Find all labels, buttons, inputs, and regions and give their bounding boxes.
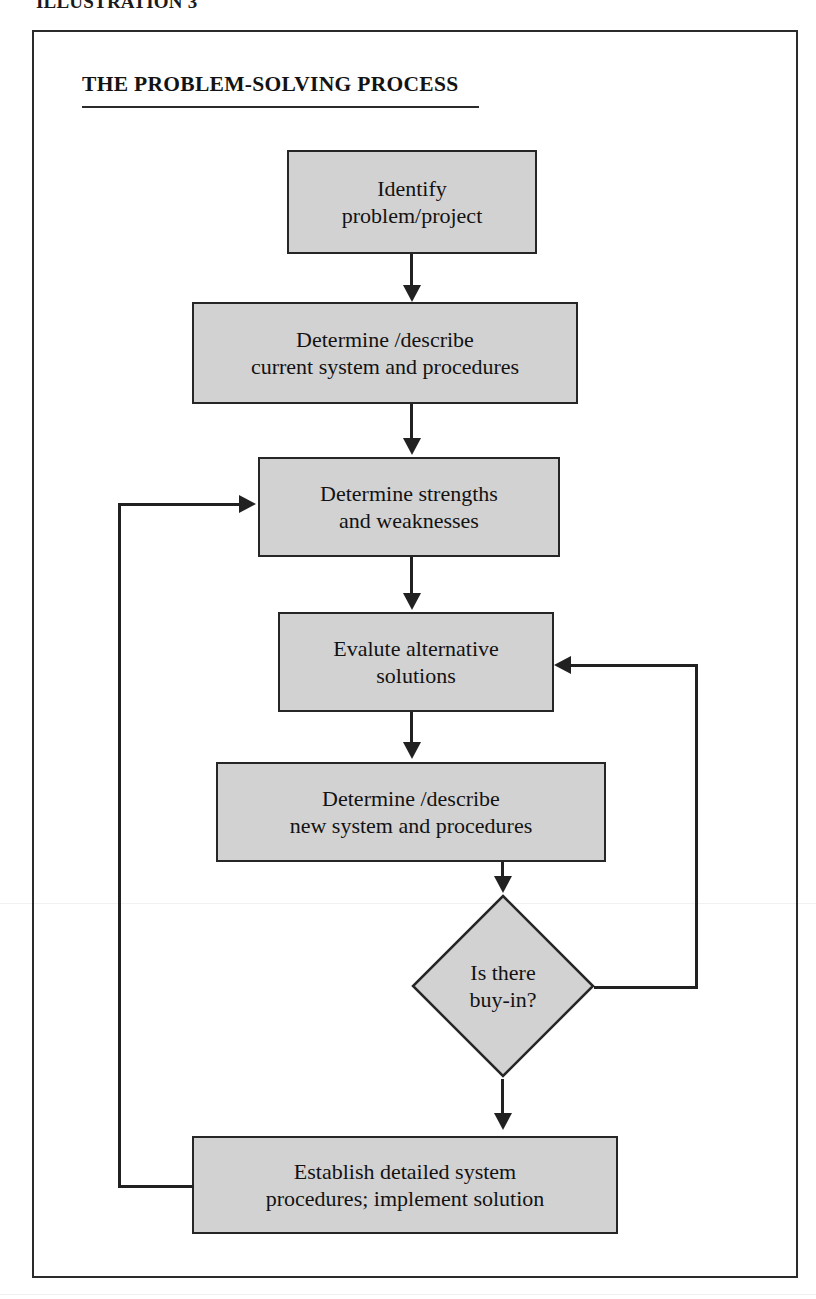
flow-node-determine-new-system[interactable]: Determine /describe new system and proce…: [216, 762, 606, 862]
flow-node-evaluate-alternatives[interactable]: Evalute alternative solutions: [278, 612, 554, 712]
flow-node-label: Establish detailed system procedures; im…: [266, 1158, 545, 1213]
feedback-right-horizontal-lower: [594, 986, 698, 989]
figure-title: THE PROBLEM-SOLVING PROCESS: [82, 72, 458, 97]
feedback-left-vertical: [118, 503, 121, 1188]
flow-node-determine-current-system[interactable]: Determine /describe current system and p…: [192, 302, 578, 404]
flow-node-label: Determine /describe new system and proce…: [290, 785, 533, 840]
flow-node-label: Determine /describe current system and p…: [251, 326, 519, 381]
feedback-right-horizontal-upper: [571, 664, 698, 667]
flow-node-establish-procedures[interactable]: Establish detailed system procedures; im…: [192, 1136, 618, 1234]
arrowhead-down-icon: [494, 1113, 512, 1130]
arrowhead-down-icon: [403, 285, 421, 302]
arrowhead-right-icon: [239, 495, 256, 513]
arrowhead-down-icon: [403, 593, 421, 610]
flow-node-label: Evalute alternative solutions: [333, 635, 499, 690]
arrowhead-down-icon: [403, 438, 421, 455]
feedback-right-vertical: [695, 664, 698, 989]
feedback-left-horizontal-upper: [118, 503, 240, 506]
flow-node-label: Is there buy-in?: [410, 893, 596, 1079]
arrowhead-down-icon: [494, 876, 512, 893]
flow-node-label: Identify problem/project: [342, 175, 483, 230]
page-caption: ILLUSTRATION 3: [36, 0, 197, 13]
flow-node-decision-buy-in[interactable]: Is there buy-in?: [410, 893, 596, 1079]
feedback-left-horizontal-lower: [118, 1185, 194, 1188]
scan-artifact-line: [0, 1294, 816, 1295]
scan-artifact-line: [0, 903, 816, 904]
title-underline: [82, 106, 479, 108]
flow-node-determine-strengths[interactable]: Determine strengths and weaknesses: [258, 457, 560, 557]
arrowhead-down-icon: [403, 742, 421, 759]
arrowhead-left-icon: [554, 656, 571, 674]
flow-node-identify-problem[interactable]: Identify problem/project: [287, 150, 537, 254]
flow-node-label: Determine strengths and weaknesses: [320, 480, 498, 535]
